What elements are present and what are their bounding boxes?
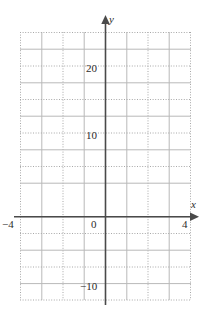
x-axis-arrowhead (190, 213, 199, 221)
x-tick-label-neg4: −4 (2, 219, 14, 230)
grid-canvas (0, 0, 211, 315)
y-tick-label-neg10: −10 (80, 281, 97, 292)
x-tick-label-4: 4 (182, 219, 188, 230)
y-tick-label-10: 10 (86, 130, 97, 141)
coordinate-grid-figure: 20 10 0 −10 −4 4 y x (0, 0, 211, 315)
y-tick-label-20: 20 (86, 63, 97, 74)
x-axis-label: x (191, 199, 196, 210)
y-tick-label-0: 0 (91, 219, 97, 230)
y-axis-label: y (109, 14, 114, 25)
